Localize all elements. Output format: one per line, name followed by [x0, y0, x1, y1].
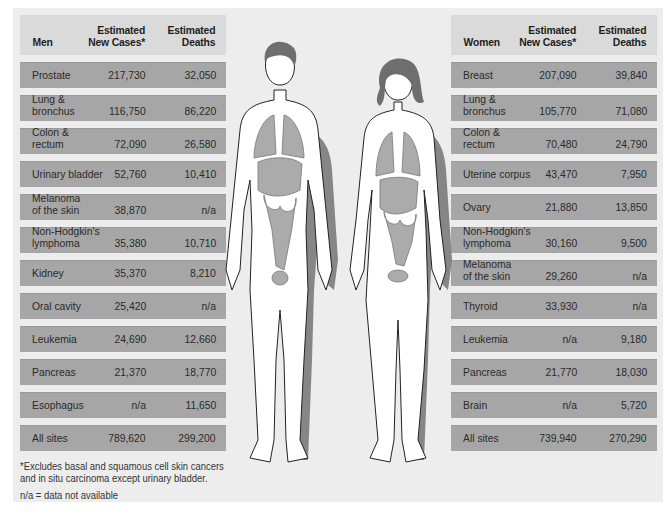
footnote-na: n/a = data not available: [20, 489, 236, 501]
estimated-new-cases: 52,760: [114, 168, 146, 180]
table-row: Uterine corpus43,4707,950: [451, 161, 657, 187]
estimated-deaths: 9,180: [621, 333, 647, 345]
men-header-deaths: Estimated Deaths: [167, 24, 215, 48]
women-table: Women Estimated New Cases* Estimated Dea…: [451, 15, 657, 458]
cancer-site: Prostate: [32, 69, 71, 81]
estimated-new-cases: 21,880: [545, 201, 577, 213]
table-row: Lung & bronchus116,75086,220: [20, 95, 226, 121]
estimated-deaths: 7,950: [621, 168, 647, 180]
estimated-deaths: 11,650: [185, 399, 216, 411]
table-row: Melanoma of the skin38,870n/a: [20, 194, 226, 220]
estimated-deaths: 270,290: [610, 432, 647, 444]
female-body-illustration: [340, 30, 458, 480]
estimated-deaths: 71,080: [615, 105, 647, 117]
estimated-new-cases: n/a: [132, 399, 146, 411]
cancer-site: Kidney: [32, 267, 64, 279]
estimated-deaths: n/a: [633, 270, 647, 282]
cancer-site: Non-Hodgkin's lymphoma: [32, 225, 100, 249]
footnote-asterisk: *Excludes basal and squamous cell skin c…: [20, 460, 236, 484]
cancer-site: All sites: [463, 432, 499, 444]
estimated-new-cases: 33,930: [545, 300, 577, 312]
cancer-site: Colon & rectum: [463, 126, 500, 150]
estimated-new-cases: 217,730: [109, 69, 146, 81]
cancer-site: Pancreas: [32, 366, 76, 378]
estimated-deaths: 18,770: [184, 366, 216, 378]
women-header-label: Women: [464, 36, 500, 48]
cancer-site: Urinary bladder: [32, 168, 103, 180]
estimated-deaths: 12,660: [184, 333, 216, 345]
estimated-deaths: 299,200: [179, 432, 216, 444]
cancer-site: Esophagus: [32, 399, 84, 411]
women-table-rows: Breast207,09039,840Lung & bronchus105,77…: [451, 62, 657, 451]
table-row: Non-Hodgkin's lymphoma30,1609,500: [451, 227, 657, 253]
cancer-site: All sites: [32, 432, 68, 444]
men-table-rows: Prostate217,73032,050Lung & bronchus116,…: [20, 62, 226, 451]
estimated-deaths: 8,210: [190, 267, 216, 279]
cancer-site: Brain: [463, 399, 487, 411]
men-header-new-cases: Estimated New Cases*: [88, 24, 145, 48]
cancer-site: Leukemia: [463, 333, 508, 345]
cancer-site: Thyroid: [463, 300, 498, 312]
table-row: Esophagusn/a11,650: [20, 392, 226, 418]
cancer-site: Lung & bronchus: [463, 93, 506, 117]
table-row: Prostate217,73032,050: [20, 62, 226, 88]
table-row: Ovary21,88013,850: [451, 194, 657, 220]
table-row: Colon & rectum70,48024,790: [451, 128, 657, 154]
estimated-deaths: 9,500: [621, 237, 647, 249]
estimated-deaths: n/a: [202, 300, 216, 312]
estimated-new-cases: 30,160: [545, 237, 577, 249]
estimated-deaths: 24,790: [615, 138, 647, 150]
estimated-new-cases: 116,750: [109, 105, 146, 117]
estimated-new-cases: 21,370: [114, 366, 146, 378]
table-row: Pancreas21,37018,770: [20, 359, 226, 385]
cancer-site: Colon & rectum: [32, 126, 69, 150]
estimated-deaths: 5,720: [621, 399, 647, 411]
estimated-deaths: 39,840: [615, 69, 647, 81]
table-row: Leukemia24,69012,660: [20, 326, 226, 352]
estimated-new-cases: n/a: [563, 399, 577, 411]
estimated-deaths: 26,580: [184, 138, 216, 150]
estimated-deaths: 86,220: [184, 105, 216, 117]
table-row: Colon & rectum72,09026,580: [20, 128, 226, 154]
estimated-new-cases: 72,090: [114, 138, 146, 150]
estimated-new-cases: 739,940: [540, 432, 577, 444]
cancer-site: Non-Hodgkin's lymphoma: [463, 225, 531, 249]
estimated-new-cases: 38,870: [114, 204, 146, 216]
estimated-new-cases: 105,770: [540, 105, 577, 117]
men-table-header: Men Estimated New Cases* Estimated Death…: [20, 15, 226, 55]
estimated-deaths: 18,030: [615, 366, 647, 378]
table-row: Leukemian/a9,180: [451, 326, 657, 352]
table-row: Urinary bladder52,76010,410: [20, 161, 226, 187]
table-row: Thyroid33,930n/a: [451, 293, 657, 319]
table-row: Oral cavity25,420n/a: [20, 293, 226, 319]
estimated-deaths: n/a: [202, 204, 216, 216]
table-row: Lung & bronchus105,77071,080: [451, 95, 657, 121]
estimated-new-cases: 789,620: [109, 432, 146, 444]
cancer-site: Leukemia: [32, 333, 77, 345]
estimated-new-cases: 207,090: [540, 69, 577, 81]
estimated-new-cases: 24,690: [114, 333, 146, 345]
estimated-deaths: n/a: [633, 300, 647, 312]
women-table-header: Women Estimated New Cases* Estimated Dea…: [451, 15, 657, 55]
cancer-site: Uterine corpus: [463, 168, 530, 180]
footnote: *Excludes basal and squamous cell skin c…: [20, 460, 236, 501]
cancer-site: Oral cavity: [32, 300, 81, 312]
table-row: Brainn/a5,720: [451, 392, 657, 418]
estimated-new-cases: 35,380: [114, 237, 146, 249]
cancer-site: Melanoma of the skin: [32, 192, 80, 216]
table-row: All sites739,940270,290: [451, 425, 657, 451]
table-row: Non-Hodgkin's lymphoma35,38010,710: [20, 227, 226, 253]
men-table: Men Estimated New Cases* Estimated Death…: [20, 15, 226, 458]
estimated-deaths: 32,050: [184, 69, 216, 81]
men-header-label: Men: [33, 36, 53, 48]
cancer-site: Lung & bronchus: [32, 93, 75, 117]
estimated-deaths: 13,850: [615, 201, 647, 213]
table-row: Breast207,09039,840: [451, 62, 657, 88]
table-row: Pancreas21,77018,030: [451, 359, 657, 385]
estimated-new-cases: n/a: [563, 333, 577, 345]
male-body-illustration: [222, 30, 340, 480]
estimated-new-cases: 29,260: [545, 270, 577, 282]
women-header-new-cases: Estimated New Cases*: [519, 24, 576, 48]
table-row: All sites789,620299,200: [20, 425, 226, 451]
estimated-deaths: 10,410: [184, 168, 216, 180]
